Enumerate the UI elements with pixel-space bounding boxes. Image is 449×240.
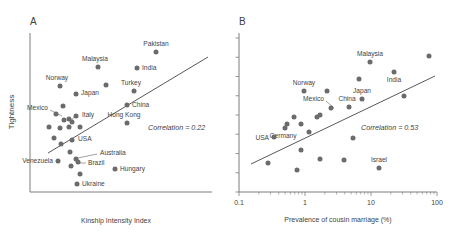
- point-label: USA: [255, 134, 269, 141]
- data-point: [58, 84, 63, 89]
- data-point: [351, 136, 356, 141]
- data-point: [78, 172, 83, 177]
- figure-container: A Tightness Kinship Intensity Index Mala…: [0, 0, 449, 240]
- data-point: [427, 54, 432, 59]
- data-point: [307, 130, 312, 135]
- data-point: [295, 168, 300, 173]
- data-point: [69, 164, 74, 169]
- panel-b-trend-line: [251, 76, 435, 164]
- data-point: [272, 135, 277, 140]
- data-point: [74, 114, 79, 119]
- callout-label: Mexico: [303, 95, 324, 102]
- point-label: China: [132, 101, 150, 108]
- data-point: [47, 125, 52, 130]
- point-label: India: [387, 76, 402, 83]
- x-tick-label: 1: [303, 199, 307, 206]
- data-point: [329, 106, 334, 111]
- x-tick-label: 100: [431, 199, 443, 206]
- x-tick-label: 0.1: [234, 199, 244, 206]
- data-point: [318, 157, 323, 162]
- data-point: [302, 89, 307, 94]
- data-point: [357, 77, 362, 82]
- point-label: Hong Kong: [108, 111, 141, 119]
- panel-b-letter: B: [239, 16, 246, 27]
- panel-a-letter: A: [30, 16, 37, 27]
- point-label: Ukraine: [82, 180, 105, 187]
- data-point: [315, 115, 320, 120]
- data-point: [70, 120, 75, 125]
- panel-b-y-ticks: [236, 38, 240, 192]
- panel-a-y-axis-title: Tightness: [7, 95, 16, 129]
- panel-b-plot: B 0.1110100 Prevalence of cousin marriag…: [225, 0, 449, 240]
- point-label: Hungary: [120, 165, 146, 173]
- data-point: [360, 97, 365, 102]
- data-point: [61, 104, 66, 109]
- data-point: [56, 159, 61, 164]
- data-point: [70, 138, 75, 143]
- panel-b-callout-labels: Mexico: [303, 95, 324, 102]
- data-point: [266, 161, 271, 166]
- data-point: [368, 60, 373, 65]
- callout-label: Australia: [100, 149, 126, 156]
- point-label: Malaysia: [357, 50, 383, 58]
- data-point: [402, 94, 407, 99]
- point-label: China: [338, 95, 356, 102]
- point-label: USA: [78, 135, 92, 142]
- data-point: [59, 142, 64, 147]
- data-point: [75, 182, 80, 187]
- x-tick-label: 10: [367, 199, 375, 206]
- data-point: [104, 83, 109, 88]
- point-label: Israel: [371, 156, 388, 163]
- data-point: [347, 105, 352, 110]
- panel-b: B 0.1110100 Prevalence of cousin marriag…: [225, 0, 449, 240]
- data-point: [52, 136, 57, 141]
- panel-a-x-axis-title: Kinship Intensity Index: [81, 217, 152, 225]
- point-label: Italy: [82, 111, 95, 119]
- data-point: [283, 126, 288, 131]
- data-point: [377, 166, 382, 171]
- data-point: [154, 50, 159, 55]
- data-point: [299, 122, 304, 127]
- panel-b-points: MalaysiaIndiaNorwayJapanChinaGermanyUSAI…: [255, 50, 431, 173]
- data-point: [54, 112, 59, 117]
- data-point: [78, 125, 83, 130]
- point-label: Norway: [293, 79, 316, 87]
- point-label: Pakistan: [143, 40, 169, 47]
- panel-a-plot: A Tightness Kinship Intensity Index Mala…: [0, 0, 225, 240]
- point-label: Venezuela: [22, 157, 53, 164]
- data-point: [113, 167, 118, 172]
- panel-b-correlation-label: Correlation = 0.53: [361, 123, 418, 132]
- data-point: [96, 65, 101, 70]
- australia-leader: [78, 154, 97, 158]
- callout-label: Brazil: [88, 159, 105, 166]
- callout-label: Mexico: [27, 104, 48, 111]
- point-label: Turkey: [121, 79, 142, 87]
- data-point: [125, 121, 130, 126]
- point-label: India: [142, 64, 157, 71]
- point-label: Japan: [353, 87, 371, 95]
- data-point: [299, 148, 304, 153]
- data-point: [68, 150, 73, 155]
- point-label: Japan: [81, 89, 99, 97]
- data-point: [58, 126, 63, 131]
- panel-a: A Tightness Kinship Intensity Index Mala…: [0, 0, 225, 240]
- data-point: [392, 70, 397, 75]
- data-point: [132, 89, 137, 94]
- point-label: Malaysia: [82, 55, 108, 63]
- data-point: [342, 158, 347, 163]
- data-point: [67, 125, 72, 130]
- panel-b-x-ticks: [239, 192, 437, 196]
- data-point: [292, 115, 297, 120]
- data-point: [125, 103, 130, 108]
- data-point: [135, 66, 140, 71]
- data-point: [74, 92, 79, 97]
- data-point: [325, 89, 330, 94]
- panel-b-x-tick-labels: 0.1110100: [234, 199, 443, 206]
- point-label: Norway: [46, 74, 69, 82]
- panel-b-x-axis-title: Prevalence of cousin marriage (%): [284, 216, 391, 224]
- data-point: [76, 160, 81, 165]
- panel-a-correlation-label: Correlation = 0.22: [148, 123, 205, 132]
- data-point: [62, 118, 67, 123]
